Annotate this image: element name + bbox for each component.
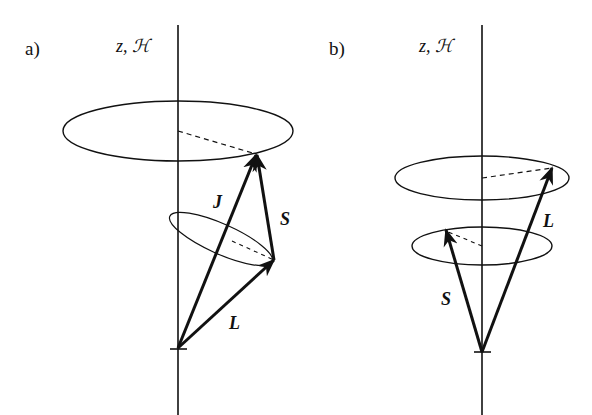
- vector-model-diagram: [0, 0, 592, 415]
- vector-label-l-a: L: [229, 314, 240, 332]
- panel-label-b: b): [329, 39, 345, 58]
- radius-dashed-l: [482, 168, 552, 178]
- radius-dashed-j: [178, 131, 256, 154]
- vector-label-l-b: L: [543, 212, 554, 230]
- vector-l-b: [482, 168, 552, 352]
- panel-a: [63, 25, 293, 415]
- axis-label-b: z, ℋ: [419, 37, 453, 55]
- vector-l-a: [178, 260, 274, 348]
- vector-s-b: [446, 230, 482, 352]
- axis-label-a: z, ℋ: [116, 37, 150, 55]
- vector-label-s-b: S: [441, 290, 451, 308]
- vector-label-s-a: S: [280, 210, 290, 228]
- vector-j-a: [178, 155, 256, 348]
- panel-label-a: a): [25, 39, 40, 58]
- vector-label-j: J: [213, 193, 222, 211]
